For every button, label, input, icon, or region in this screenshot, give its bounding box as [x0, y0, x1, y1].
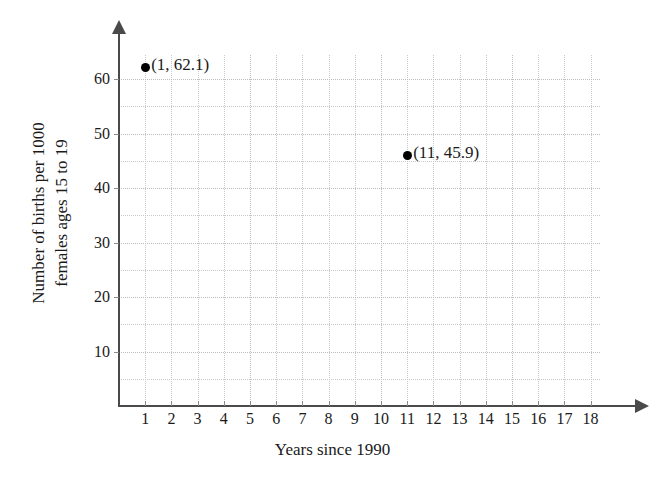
gridline-vertical: [433, 55, 434, 406]
data-point-label: (1, 62.1): [151, 56, 209, 74]
gridline-vertical: [302, 55, 303, 406]
x-tick-mark: [407, 401, 408, 406]
x-tick-mark: [198, 401, 199, 406]
x-tick-mark: [591, 401, 592, 406]
gridline-horizontal: [119, 134, 600, 135]
gridline-vertical: [276, 55, 277, 406]
gridline-horizontal: [119, 79, 600, 80]
x-tick-mark: [145, 401, 146, 406]
plot-grid: [119, 55, 600, 406]
gridline-vertical: [460, 55, 461, 406]
x-tick-mark: [538, 401, 539, 406]
x-tick-mark: [302, 401, 303, 406]
gridline-vertical: [250, 55, 251, 406]
gridline-horizontal: [119, 243, 600, 244]
gridline-horizontal: [119, 352, 600, 353]
x-tick-mark: [564, 401, 565, 406]
y-tick-mark: [114, 243, 119, 244]
y-axis-title-line-1: Number of births per 1000: [27, 13, 50, 413]
y-tick-mark: [114, 79, 119, 80]
gridline-vertical: [355, 55, 356, 406]
x-tick-mark: [224, 401, 225, 406]
data-point[interactable]: [403, 151, 412, 160]
x-tick-mark: [276, 401, 277, 406]
gridline-vertical: [564, 55, 565, 406]
x-tick-mark: [460, 401, 461, 406]
gridline-horizontal: [119, 297, 600, 298]
gridline-vertical: [145, 55, 146, 406]
y-tick-mark: [114, 188, 119, 189]
y-tick-mark: [114, 352, 119, 353]
x-tick-mark: [381, 401, 382, 406]
x-tick-mark: [329, 401, 330, 406]
scatter-plot-figure: 123456789101112131415161718 102030405060…: [0, 0, 665, 488]
x-axis-arrow-icon: [635, 399, 649, 413]
gridline-horizontal: [119, 188, 600, 189]
y-tick-mark: [114, 134, 119, 135]
gridline-horizontal: [119, 270, 600, 271]
y-axis-arrow-icon: [112, 20, 126, 34]
gridline-vertical: [171, 55, 172, 406]
gridline-vertical: [538, 55, 539, 406]
x-tick-mark: [355, 401, 356, 406]
gridline-vertical: [329, 55, 330, 406]
x-tick-mark: [486, 401, 487, 406]
gridline-vertical: [486, 55, 487, 406]
gridline-vertical: [512, 55, 513, 406]
x-tick-mark: [433, 401, 434, 406]
gridline-vertical: [224, 55, 225, 406]
gridline-horizontal: [119, 324, 600, 325]
gridline-vertical: [381, 55, 382, 406]
y-axis-line: [118, 30, 120, 407]
gridline-horizontal: [119, 161, 600, 162]
x-tick-label: 18: [571, 409, 611, 429]
gridline-vertical: [407, 55, 408, 406]
gridline-horizontal: [119, 215, 600, 216]
gridline-horizontal: [119, 379, 600, 380]
x-tick-mark: [512, 401, 513, 406]
x-tick-mark: [171, 401, 172, 406]
data-point[interactable]: [141, 63, 150, 72]
y-axis-title: Number of births per 1000 females ages 1…: [27, 13, 73, 413]
gridline-vertical: [591, 55, 592, 406]
y-tick-mark: [114, 297, 119, 298]
x-axis-title: Years since 1990: [0, 440, 665, 460]
data-point-label: (11, 45.9): [413, 144, 479, 162]
gridline-vertical: [198, 55, 199, 406]
x-tick-mark: [250, 401, 251, 406]
gridline-horizontal: [119, 106, 600, 107]
y-axis-title-line-2: females ages 15 to 19: [50, 13, 73, 413]
